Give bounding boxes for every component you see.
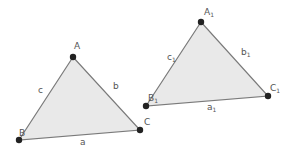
vertex-point-a [70, 54, 76, 60]
vertex-label-c: C [144, 118, 150, 127]
vertex-point-a1 [198, 19, 204, 25]
triangle-abc [19, 57, 140, 140]
triangles-drawing [0, 0, 296, 157]
vertex-point-c [137, 127, 143, 133]
side-label-a: a [80, 138, 86, 147]
vertex-label-a1: A1 [204, 8, 214, 18]
vertex-label-b: B [19, 129, 25, 138]
side-label-b1: b1 [241, 48, 251, 58]
side-label-a1: a1 [207, 103, 216, 113]
side-label-c: c [38, 86, 43, 95]
vertex-label-c1: C1 [270, 84, 280, 94]
diagram-canvas: ABCcbaA1B1C1c1b1a1 [0, 0, 296, 157]
vertex-label-b1: B1 [148, 94, 158, 104]
vertex-label-a: A [74, 42, 80, 51]
triangle-a1b1c1 [146, 22, 268, 106]
side-label-b: b [113, 82, 119, 91]
side-label-c1: c1 [167, 53, 176, 63]
